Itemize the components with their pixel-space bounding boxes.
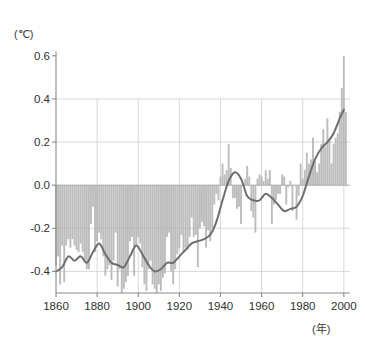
bar [215,185,217,194]
bar [65,185,67,245]
bar [185,185,187,248]
bar [88,185,90,269]
bar [294,185,296,186]
bar [199,185,201,228]
bar [131,185,133,237]
bar [162,185,164,278]
bar [287,185,289,187]
bar [291,185,293,211]
bar [63,185,65,282]
bar [254,185,256,232]
bar [183,185,185,252]
bar [244,179,246,185]
bar [333,144,335,185]
temperature-anomaly-chart: (℃) 0.60.40.20.0-0.2-0.4 186018801900192… [0,0,365,342]
bar [115,185,117,232]
bar [57,185,59,256]
bar [80,185,82,243]
bar [197,185,199,267]
bar [345,112,347,185]
bar [86,185,88,269]
bar [191,185,193,217]
bar [168,185,170,232]
plot-area [0,0,365,342]
bar [207,185,209,230]
bar [289,181,291,185]
bar [285,185,287,204]
bar [154,185,156,289]
x-axis-tick-label: 1960 [249,300,275,312]
bar [170,185,172,271]
bar [102,185,104,256]
bar [67,185,69,239]
x-axis-tick-label: 2000 [331,300,357,312]
bar [187,185,189,250]
bar [234,185,236,198]
bar [201,185,203,222]
bar [160,185,162,291]
x-axis-tick-label: 1900 [125,300,151,312]
bar [304,170,306,185]
bar [261,177,263,186]
bar [172,185,174,284]
bar [232,185,234,198]
bar [314,161,316,185]
bar [326,118,328,185]
x-axis-tick-label: 1860 [43,300,69,312]
bar [125,185,127,282]
bar [100,185,102,239]
bar [217,185,219,200]
bar [246,166,248,185]
bar [121,185,123,293]
bar [335,138,337,185]
bar [123,185,125,289]
bar [174,185,176,269]
bar [220,177,222,186]
bar [146,185,148,291]
bar [82,185,84,252]
bar [263,181,265,185]
bar [222,164,224,186]
bar [113,185,115,260]
bar [193,185,195,237]
bar [328,140,330,185]
bar [180,185,182,235]
bar [343,56,345,185]
bar [137,185,139,237]
bar [238,185,240,207]
bar [98,185,100,232]
bar [316,172,318,185]
bar [257,179,259,185]
bar [224,174,226,185]
bar [279,185,281,194]
bar [109,185,111,265]
bar [117,185,119,286]
bar [133,185,135,276]
bar [240,185,242,224]
bar [211,185,213,228]
bar [275,185,277,200]
bar [331,164,333,186]
bar [76,185,78,250]
bar [213,185,215,204]
bar [84,185,86,260]
bar [248,177,250,186]
bar [265,170,267,185]
x-axis-tick-label: 1980 [290,300,316,312]
bar [143,185,145,284]
bar [148,185,150,269]
bar [236,185,238,209]
bar [318,164,320,186]
bar [339,112,341,185]
x-axis-tick-label: 1920 [167,300,193,312]
x-axis-tick-label: 1940 [208,300,234,312]
bar [156,185,158,293]
bar [74,185,76,245]
bar [96,185,98,241]
x-axis-unit-label: (年) [312,320,330,336]
bar [92,185,94,207]
bar [176,185,178,254]
bar [277,185,279,194]
bar [250,185,252,211]
bar [259,174,261,185]
